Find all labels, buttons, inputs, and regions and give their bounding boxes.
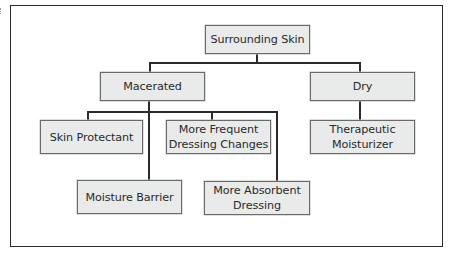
edge-artifact [0,8,5,14]
node-label-line-1: More Absorbent [213,183,300,198]
node-surrounding-skin: Surrounding Skin [205,25,310,54]
node-label: Surrounding Skin [210,32,304,47]
node-label-line-1: Therapeutic [330,122,396,137]
node-label: Moisture Barrier [85,190,173,205]
connector-to-skin-protectant [87,111,89,120]
node-dry: Dry [310,72,415,101]
connector-to-macerated [149,62,151,72]
connector-to-more-frequent [211,111,213,120]
node-more-absorbent-dressing: More Absorbent Dressing [204,181,310,215]
connector-macerated-bar [87,111,278,113]
node-skin-protectant: Skin Protectant [40,120,143,154]
node-macerated: Macerated [100,72,205,101]
node-label-line-2: Moisturizer [332,137,393,152]
connector-root-bar [149,62,360,64]
node-label-line-1: More Frequent [179,122,258,137]
node-label: Macerated [123,79,181,94]
connector-to-dry [359,62,361,72]
node-label-line-2: Dressing Changes [169,137,268,152]
node-moisture-barrier: Moisture Barrier [77,180,182,214]
connector-to-more-absorbent [276,111,278,181]
node-more-frequent-dressing-changes: More Frequent Dressing Changes [166,120,271,154]
node-label: Skin Protectant [50,130,134,145]
node-label-line-2: Dressing [233,198,281,213]
node-therapeutic-moisturizer: Therapeutic Moisturizer [310,120,415,154]
connector-dry-stem [359,100,361,120]
node-label: Dry [353,79,373,94]
